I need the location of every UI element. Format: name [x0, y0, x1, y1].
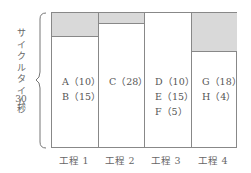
y-axis-value: 30 秒 [10, 94, 32, 114]
task-item: B（15） [62, 89, 98, 104]
idle-time-bar [52, 13, 98, 37]
task-list: G（18） H（4） [192, 74, 237, 104]
task-item: C（28） [109, 74, 144, 89]
task-item: F（5） [155, 104, 191, 119]
task-item: D（10） [155, 74, 191, 89]
cycle-time-value: 30 [10, 94, 32, 104]
task-item: A（10） [62, 74, 98, 89]
task-item: E（15） [155, 89, 191, 104]
task-list: C（28） [99, 74, 144, 89]
process-column-3: D（10） E（15） F（5） [144, 13, 191, 147]
task-item: G（18） [202, 74, 237, 89]
process-label-3: 工程 3 [143, 153, 189, 167]
brace-icon [36, 12, 48, 149]
process-column-1: A（10） B（15） [52, 13, 98, 147]
process-column-2: C（28） [98, 13, 144, 147]
process-column-4: G（18） H（4） [191, 13, 237, 147]
process-label-2: 工程 2 [97, 153, 143, 167]
task-list: A（10） B（15） [52, 74, 98, 104]
process-label-1: 工程 1 [51, 153, 97, 167]
idle-time-bar [192, 13, 237, 52]
line-balance-chart: A（10） B（15） C（28） D（10） E（15） F（5） G（18）… [51, 12, 237, 148]
process-label-4: 工程 4 [190, 153, 236, 167]
task-list: D（10） E（15） F（5） [145, 74, 191, 119]
cycle-time-unit: 秒 [10, 104, 32, 114]
task-item: H（4） [202, 89, 237, 104]
idle-time-bar [99, 13, 144, 24]
